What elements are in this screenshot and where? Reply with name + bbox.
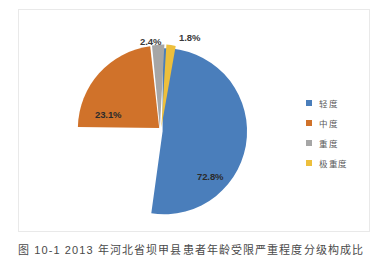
chart-panel: 72.8% 23.1% 2.4% 1.8% 轻度 中度 重度 极重度 — [18, 9, 370, 232]
legend-swatch-extremely-severe — [306, 160, 312, 166]
pie-label-severe: 2.4% — [140, 36, 161, 47]
legend-label-mild: 轻度 — [319, 97, 338, 109]
legend-label-severe: 重度 — [319, 137, 338, 149]
legend-swatch-mild — [306, 100, 312, 106]
pie-label-mild: 72.8% — [197, 171, 223, 182]
chart-legend: 轻度 中度 重度 极重度 — [306, 94, 370, 174]
legend-label-moderate: 中度 — [319, 117, 338, 129]
pie-label-moderate: 23.1% — [95, 109, 121, 120]
legend-label-extremely-severe: 极重度 — [319, 157, 348, 169]
legend-swatch-severe — [306, 140, 312, 146]
pie-chart-svg — [19, 10, 309, 233]
legend-item-mild[interactable]: 轻度 — [306, 94, 370, 112]
figure-caption: 图 10-1 2013 年河北省坝甲县患者年龄受限严重程度分级构成比 — [18, 243, 372, 256]
pie-label-extremely-severe: 1.8% — [179, 32, 200, 43]
legend-item-moderate[interactable]: 中度 — [306, 114, 370, 132]
figure-root: 72.8% 23.1% 2.4% 1.8% 轻度 中度 重度 极重度 — [0, 0, 390, 256]
legend-swatch-moderate — [306, 120, 312, 126]
pie-chart-area: 72.8% 23.1% 2.4% 1.8% — [19, 10, 309, 233]
legend-item-severe[interactable]: 重度 — [306, 134, 370, 152]
legend-item-extremely-severe[interactable]: 极重度 — [306, 154, 370, 172]
